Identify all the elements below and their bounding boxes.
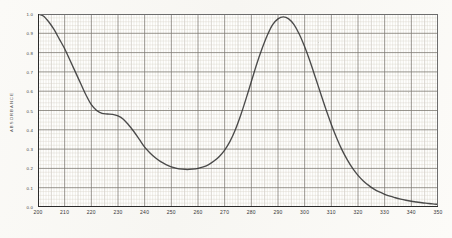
x-tick-label: 230 xyxy=(113,209,122,215)
x-tick-label: 260 xyxy=(193,209,202,215)
x-tick-label: 220 xyxy=(87,209,96,215)
plot-area xyxy=(38,14,438,207)
y-tick-label: 0.2 xyxy=(26,166,33,171)
x-tick-label: 200 xyxy=(33,209,42,215)
x-tick-label: 250 xyxy=(167,209,176,215)
x-tick-label: 270 xyxy=(220,209,229,215)
absorbance-curve xyxy=(38,14,438,207)
plot-border-right xyxy=(437,14,438,207)
scan-speckle xyxy=(168,108,169,109)
y-tick-label: 0.9 xyxy=(26,31,33,36)
y-tick-label: 0.8 xyxy=(26,50,33,55)
scan-speckle xyxy=(236,148,237,149)
plot-border-top xyxy=(38,14,438,15)
y-tick-label: 0.7 xyxy=(26,69,33,74)
plot-canvas xyxy=(38,14,438,207)
y-tick-label: 1.0 xyxy=(26,12,33,17)
x-tick-label: 320 xyxy=(353,209,362,215)
y-axis-tick-labels: 0.00.10.20.30.40.50.60.70.80.91.0 xyxy=(0,14,36,207)
y-tick-label: 0.4 xyxy=(26,127,33,132)
x-tick-label: 300 xyxy=(300,209,309,215)
x-tick-label: 240 xyxy=(140,209,149,215)
y-axis-line xyxy=(38,14,39,207)
y-tick-label: 0.0 xyxy=(26,205,33,210)
x-tick-label: 280 xyxy=(247,209,256,215)
x-tick-label: 310 xyxy=(327,209,336,215)
x-tick-label: 330 xyxy=(380,209,389,215)
x-tick-label: 340 xyxy=(407,209,416,215)
y-tick-label: 0.3 xyxy=(26,147,33,152)
x-axis-line xyxy=(38,206,438,207)
y-tick-label: 0.1 xyxy=(26,185,33,190)
x-tick-label: 210 xyxy=(60,209,69,215)
y-tick-label: 0.5 xyxy=(26,108,33,113)
x-axis-tick-labels: 2002102202302402502602702802903003103203… xyxy=(38,209,438,223)
x-tick-label: 290 xyxy=(273,209,282,215)
uv-vis-spectrum-figure: ABSORBANCE 0.00.10.20.30.40.50.60.70.80.… xyxy=(0,0,452,238)
y-tick-label: 0.6 xyxy=(26,89,33,94)
x-tick-label: 350 xyxy=(433,209,442,215)
